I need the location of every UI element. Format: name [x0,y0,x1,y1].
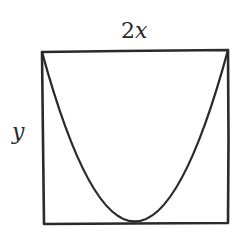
width-label: 2x [121,20,147,42]
height-label: y [12,121,24,143]
width-variable: x [135,18,147,43]
width-coefficient: 2 [121,18,135,43]
parabola-curve [42,50,228,222]
